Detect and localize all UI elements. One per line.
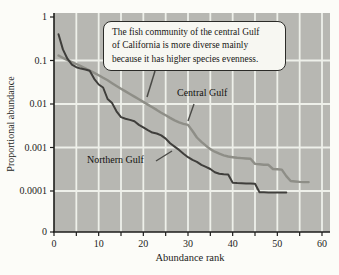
y-tick-label: 0.001 [25, 142, 48, 153]
x-axis-title: Abundance rank [120, 252, 260, 263]
callout-text-line2: of California is more diverse mainly [112, 39, 278, 52]
x-tick-label: 50 [272, 238, 282, 249]
y-tick-label: 0 [42, 226, 47, 237]
y-tick-label: 1 [42, 11, 47, 22]
x-tick-label: 0 [52, 238, 57, 249]
callout-text-line3: because it has higher species evenness. [112, 53, 278, 66]
y-tick-label: 0.1 [35, 55, 48, 66]
x-tick-label: 20 [138, 238, 148, 249]
rank-abundance-figure: 010203040506010.10.010.0010.00010 The fi… [0, 0, 339, 275]
x-tick-label: 60 [317, 238, 327, 249]
y-axis-title: Proportional abundance [5, 76, 16, 171]
y-tick-label: 0.01 [30, 98, 48, 109]
central-gulf-label: Central Gulf [177, 87, 227, 98]
x-tick-label: 10 [94, 238, 104, 249]
northern-gulf-label: Northern Gulf [87, 154, 144, 165]
y-tick-label: 0.0001 [20, 185, 48, 196]
x-tick-label: 30 [183, 238, 193, 249]
callout-box: The fish community of the central Gulf o… [103, 21, 286, 71]
callout-text-line1: The fish community of the central Gulf [112, 26, 278, 39]
x-tick-label: 40 [228, 238, 238, 249]
